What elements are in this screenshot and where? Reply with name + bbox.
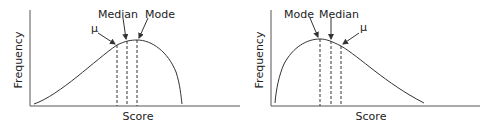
mean-arrow bbox=[98, 33, 115, 44]
y-axis-label: Frequency bbox=[253, 31, 266, 88]
mode-label: Mode bbox=[284, 8, 314, 21]
median-arrow bbox=[123, 18, 126, 39]
mean-arrow bbox=[343, 33, 359, 44]
x-axis-label: Score bbox=[356, 110, 387, 123]
distribution-curve bbox=[275, 39, 424, 103]
y-axis-label: Frequency bbox=[12, 31, 25, 88]
mean-label: μ bbox=[91, 22, 98, 35]
mode-label: Mode bbox=[145, 8, 175, 21]
mode-arrow bbox=[139, 18, 148, 38]
right-distribution-chart: Mode Median μ Score Frequency bbox=[253, 8, 480, 123]
left-distribution-chart: μ Median Mode Score Frequency bbox=[12, 8, 240, 123]
median-label: Median bbox=[98, 8, 138, 21]
median-label: Median bbox=[319, 8, 359, 21]
x-axis-label: Score bbox=[123, 110, 154, 123]
mean-label: μ bbox=[360, 21, 367, 34]
distribution-curve bbox=[34, 40, 182, 104]
skewed-distributions-diagram: μ Median Mode Score Frequency Mode Media… bbox=[0, 0, 493, 128]
